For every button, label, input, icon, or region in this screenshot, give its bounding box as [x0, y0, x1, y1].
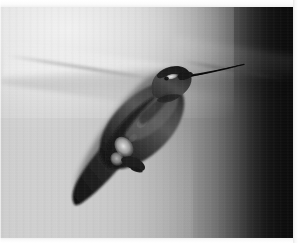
bird-crown-shadow [157, 67, 189, 78]
bird-back-highlight [125, 90, 179, 140]
bird-white-flank-patch [108, 133, 138, 168]
wing-blur-line-left [7, 54, 158, 81]
bird-head [152, 66, 192, 100]
bird-belly-shadow [106, 95, 158, 165]
bird-foot [121, 156, 145, 172]
wing-blur-streak-right-glow [167, 37, 293, 106]
photo-border-top [0, 0, 298, 7]
photo-border-bottom [0, 238, 298, 243]
photo-border-right [293, 0, 298, 243]
bird-throat-shadow [157, 94, 181, 102]
bird-motion-halo [75, 70, 186, 199]
bird-eye-stripe [165, 73, 178, 81]
bird-tail [72, 127, 137, 205]
wing-blur-line-right [182, 60, 286, 81]
bird-beak [185, 64, 245, 77]
hummingbird-photograph [0, 7, 293, 238]
film-grain-horizontal [0, 7, 293, 238]
bird-beak-base [178, 72, 193, 80]
wing-blur-streak-left [1, 40, 181, 109]
bird-body [100, 82, 184, 169]
bird-eye [164, 77, 169, 81]
hummingbird-figure [0, 7, 293, 238]
bird-feather-mottling [128, 103, 158, 143]
photograph-frame [0, 0, 298, 243]
background-lower-gray-field [0, 127, 193, 238]
film-grain-vertical [0, 7, 293, 238]
bird-wing-root-shadow [139, 93, 170, 124]
background-highlight-haze [0, 7, 234, 118]
